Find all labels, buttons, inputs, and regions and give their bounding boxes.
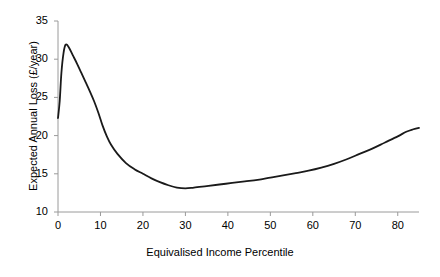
x-tick-label: 30 xyxy=(170,219,200,231)
x-tick-label: 60 xyxy=(298,219,328,231)
chart-container: Equivalised Income Percentile Expected A… xyxy=(0,0,440,277)
x-tick-label: 80 xyxy=(383,219,413,231)
x-axis-ticks xyxy=(58,212,398,216)
x-tick-label: 0 xyxy=(43,219,73,231)
x-tick-label: 40 xyxy=(213,219,243,231)
x-tick-label: 20 xyxy=(128,219,158,231)
y-tick-label: 20 xyxy=(22,129,48,141)
x-tick-label: 50 xyxy=(255,219,285,231)
data-series-line xyxy=(58,44,419,188)
axis-lines xyxy=(58,21,419,212)
y-tick-label: 35 xyxy=(22,14,48,26)
y-tick-label: 25 xyxy=(22,90,48,102)
x-tick-label: 10 xyxy=(85,219,115,231)
y-tick-label: 10 xyxy=(22,205,48,217)
y-tick-label: 30 xyxy=(22,52,48,64)
x-axis-title: Equivalised Income Percentile xyxy=(0,246,440,258)
chart-plot-area xyxy=(0,0,440,277)
y-tick-label: 15 xyxy=(22,167,48,179)
y-axis-title: Expected Annual Loss (£/year) xyxy=(27,21,39,211)
x-tick-label: 70 xyxy=(340,219,370,231)
